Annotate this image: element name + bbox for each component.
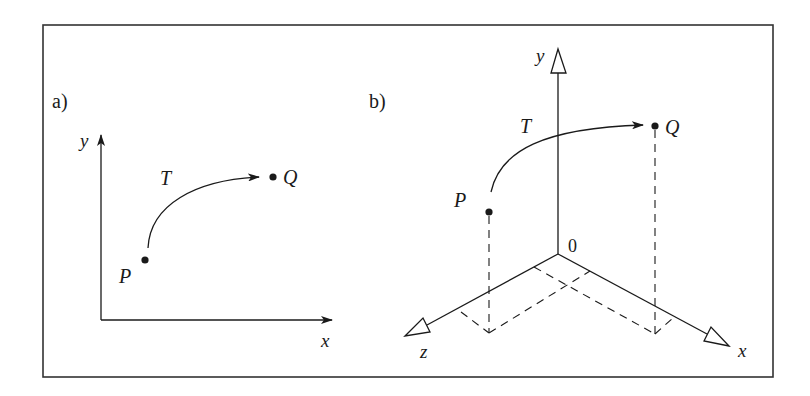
panel-a-point-p <box>141 256 148 263</box>
panel-a-point-q <box>269 173 276 180</box>
panel-a-transform-label: T <box>160 167 173 189</box>
panel-a: a) y x T P Q <box>52 90 332 351</box>
panel-b-x-label: x <box>737 340 747 361</box>
panel-b-transform-arrow <box>491 125 643 192</box>
panel-b-point-p-label: P <box>453 189 466 211</box>
panel-a-y-label: y <box>78 130 89 151</box>
figure-canvas: a) y x T P Q b) y z x 0 <box>0 0 810 396</box>
panel-b-transform-label: T <box>520 115 533 137</box>
panel-b-y-arrowhead <box>551 49 566 73</box>
panel-b-projection-lines <box>461 130 673 334</box>
panel-b-point-q-label: Q <box>665 116 680 138</box>
panel-a-label: a) <box>52 90 68 113</box>
panel-b-label: b) <box>369 90 386 113</box>
panel-a-x-label: x <box>320 330 330 351</box>
panel-b-z-label: z <box>419 341 428 362</box>
panel-b-z-arrowhead <box>405 318 430 336</box>
panel-a-point-p-label: P <box>118 265 131 287</box>
panel-b-z-axis <box>427 254 558 325</box>
panel-b-origin-label: 0 <box>568 236 577 256</box>
panel-b: b) y z x 0 T P <box>369 45 747 362</box>
panel-b-point-p <box>485 208 492 215</box>
panel-a-point-q-label: Q <box>283 166 298 188</box>
figure-frame <box>43 25 773 377</box>
panel-b-x-arrowhead <box>704 327 729 346</box>
panel-b-point-q <box>651 122 658 129</box>
panel-b-y-label: y <box>534 45 545 66</box>
